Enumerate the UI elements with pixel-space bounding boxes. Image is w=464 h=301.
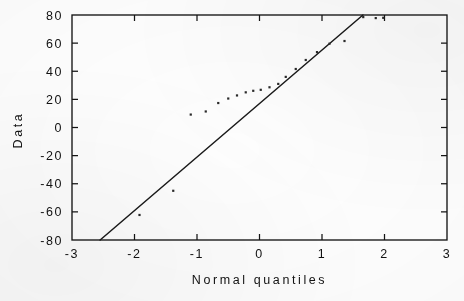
x-axis-ticks-top <box>135 15 385 21</box>
data-point <box>227 97 229 99</box>
reference-line <box>100 15 363 240</box>
data-point <box>295 68 297 70</box>
data-point <box>285 76 287 78</box>
data-point <box>245 91 247 93</box>
data-point <box>268 86 270 88</box>
y-axis-tick-labels: -80-60-40-20020406080 <box>40 9 63 248</box>
y-tick-label: 0 <box>54 121 63 135</box>
data-point <box>172 190 174 192</box>
x-tick-label: 3 <box>443 247 452 261</box>
x-tick-label: -3 <box>65 247 79 261</box>
data-point <box>217 102 219 104</box>
x-tick-label: -2 <box>127 247 141 261</box>
y-tick-label: -60 <box>40 205 63 219</box>
x-tick-label: 0 <box>255 247 264 261</box>
x-tick-label: -1 <box>190 247 204 261</box>
data-point <box>236 94 238 96</box>
y-tick-label: 20 <box>46 93 63 107</box>
y-axis-ticks-right <box>441 43 447 212</box>
y-tick-label: -40 <box>40 177 63 191</box>
data-point <box>316 51 318 53</box>
scatter-points <box>138 16 384 216</box>
data-point <box>252 90 254 92</box>
y-tick-label: -80 <box>40 234 63 248</box>
reference-line-segment <box>100 15 363 240</box>
data-point <box>305 59 307 61</box>
x-tick-label: 2 <box>380 247 389 261</box>
data-point <box>343 40 345 42</box>
x-axis-ticks-bottom <box>135 234 385 240</box>
qq-plot-figure: -3-2-10123 -80-60-40-20020406080 Normal … <box>0 0 464 301</box>
data-point <box>328 43 330 45</box>
y-tick-label: -20 <box>40 149 63 163</box>
data-point <box>382 17 384 19</box>
plot-frame <box>72 15 447 240</box>
y-axis-title: Data <box>11 112 25 149</box>
data-point <box>138 214 140 216</box>
plot-canvas: -3-2-10123 -80-60-40-20020406080 Normal … <box>0 0 464 301</box>
data-point <box>260 89 262 91</box>
data-point <box>375 17 377 19</box>
x-axis-title: Normal quantiles <box>192 273 327 287</box>
data-point <box>190 113 192 115</box>
y-tick-label: 40 <box>46 65 63 79</box>
x-axis-tick-labels: -3-2-10123 <box>65 247 451 261</box>
data-point <box>277 83 279 85</box>
data-point <box>205 110 207 112</box>
y-tick-label: 80 <box>46 9 63 23</box>
y-axis-ticks-left <box>72 43 78 212</box>
y-tick-label: 60 <box>46 37 63 51</box>
data-point <box>362 16 364 18</box>
x-tick-label: 1 <box>318 247 327 261</box>
